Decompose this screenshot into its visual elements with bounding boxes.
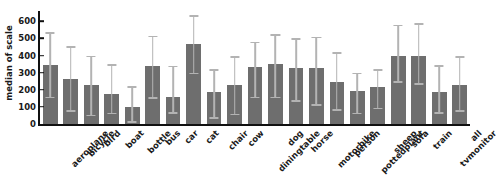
error-bar-cap-lower (46, 97, 55, 99)
error-bar-cap-lower (148, 97, 157, 99)
error-bar-cap-upper (169, 66, 178, 68)
y-tick-mark (40, 38, 44, 40)
error-bar-cap-upper (332, 52, 341, 54)
bar-group (350, 11, 365, 124)
bar-group (268, 11, 283, 124)
y-tick-label: 600 (18, 16, 36, 26)
error-bar-cap-lower (353, 113, 362, 115)
bar-group (309, 11, 324, 124)
bar-group (391, 11, 406, 124)
error-bar-line (316, 37, 318, 105)
bar-group (370, 11, 385, 124)
bar-group (432, 11, 447, 124)
error-bar-cap-lower (189, 73, 198, 75)
x-axis-category-labels: aeroplanebicyclebirdboatbottlebuscarcatc… (40, 128, 470, 193)
error-bar-line (254, 42, 256, 97)
y-axis-tick-labels: 0100200300400500600 (14, 0, 36, 193)
error-bar-cap-upper (87, 56, 96, 58)
error-bar-cap-upper (455, 56, 464, 58)
bar-group (207, 11, 222, 124)
error-bar-cap-lower (209, 117, 218, 119)
x-tick-label: train (431, 128, 454, 151)
error-bar-cap-lower (128, 121, 137, 123)
y-tick-mark (40, 20, 44, 22)
error-bar-cap-upper (148, 36, 157, 38)
bar-group (289, 11, 304, 124)
error-bar-line (336, 52, 338, 109)
error-bar-cap-lower (394, 81, 403, 83)
error-bar-line (295, 38, 297, 100)
error-bar-cap-lower (250, 97, 259, 99)
error-bar-cap-lower (87, 115, 96, 117)
error-bar-line (234, 56, 236, 113)
error-bar-line (90, 56, 92, 115)
y-tick-label: 500 (18, 33, 36, 43)
error-bar-cap-upper (414, 23, 423, 25)
error-bar-cap-lower (271, 97, 280, 99)
error-bar-cap-upper (128, 86, 137, 88)
y-axis-label-text: median of scale (4, 25, 14, 100)
error-bar-line (131, 86, 133, 121)
error-bar-cap-lower (373, 108, 382, 110)
error-bar-line (459, 56, 461, 110)
error-bar-line (70, 46, 72, 110)
y-tick-mark (40, 106, 44, 108)
bar-group (125, 11, 140, 124)
error-bar-cap-upper (291, 38, 300, 40)
error-bar-line (418, 23, 420, 83)
error-bar-cap-lower (107, 113, 116, 115)
y-tick-mark (40, 89, 44, 91)
error-bar-line (152, 36, 154, 98)
bar-group (43, 11, 58, 124)
bar-group (227, 11, 242, 124)
error-bar-cap-upper (66, 46, 75, 48)
x-tick-label: car (182, 128, 200, 146)
y-tick-label: 100 (18, 102, 36, 112)
error-bar-cap-upper (46, 32, 55, 34)
error-bar-cap-upper (271, 34, 280, 36)
error-bar-line (398, 25, 400, 82)
y-tick-label: 0 (30, 119, 36, 129)
y-tick-label: 300 (18, 68, 36, 78)
error-bar-cap-lower (291, 100, 300, 102)
error-bar-cap-lower (312, 104, 321, 106)
bar-group (84, 11, 99, 124)
error-bar-cap-upper (189, 15, 198, 17)
x-tick-label: cow (245, 128, 265, 148)
bar-group (63, 11, 78, 124)
error-bar-cap-lower (332, 109, 341, 111)
error-bar-cap-lower (414, 83, 423, 85)
error-bar-cap-upper (373, 69, 382, 71)
y-tick-mark (40, 55, 44, 57)
x-tick-label: cat (203, 128, 221, 146)
y-tick-label: 400 (18, 51, 36, 61)
error-bar-cap-lower (169, 112, 178, 114)
bar-group (411, 11, 426, 124)
error-bar-line (377, 69, 379, 108)
bar-group (145, 11, 160, 124)
error-bar-line (111, 64, 113, 113)
error-bar-cap-lower (230, 114, 239, 116)
error-bar-cap-upper (250, 42, 259, 44)
error-bar-cap-upper (107, 64, 116, 66)
error-bar-cap-lower (66, 110, 75, 112)
bar-group (330, 11, 345, 124)
bar-group (452, 11, 467, 124)
error-bar-line (357, 73, 359, 113)
error-bar-line (193, 15, 195, 72)
error-bar-line (438, 65, 440, 112)
error-bar-line (275, 34, 277, 96)
error-bar-line (49, 32, 51, 96)
error-bar-cap-upper (394, 25, 403, 27)
y-tick-label: 200 (18, 85, 36, 95)
error-bar-line (213, 69, 215, 117)
error-bar-cap-upper (209, 69, 218, 71)
bar-group (248, 11, 263, 124)
error-bar-cap-lower (435, 112, 444, 114)
plot-area (40, 11, 470, 124)
bar-group (166, 11, 181, 124)
error-bar-cap-upper (353, 73, 362, 75)
y-tick-mark (40, 72, 44, 74)
error-bar-cap-upper (230, 56, 239, 58)
